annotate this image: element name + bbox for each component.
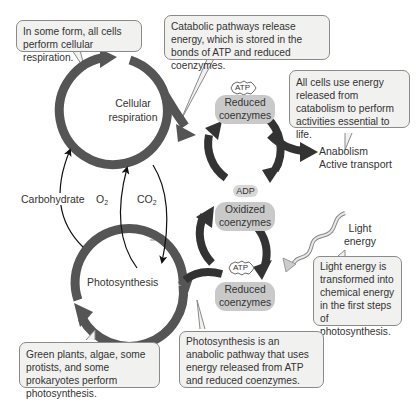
reduced-coenzymes-bottom: Reduced coenzymes bbox=[215, 282, 275, 311]
o2-label: O2 bbox=[96, 193, 108, 209]
light-energy-label: Light energy bbox=[340, 222, 380, 247]
callout-light-energy-transformed: Light energy is transformed into chemica… bbox=[313, 256, 402, 326]
upper-cycle-arrowhead-right bbox=[262, 165, 282, 183]
active-transport-label: Active transport bbox=[319, 158, 392, 170]
atp-top-label: ATP bbox=[235, 82, 250, 94]
callout-green-plants: Green plants, algae, some protists, and … bbox=[19, 342, 160, 388]
atp-bottom-label: ATP bbox=[233, 262, 248, 274]
callout-anabolic-pathway: Photosynthesis is an anabolic pathway th… bbox=[179, 331, 324, 388]
callout-catabolic-pathways: Catabolic pathways release energy, which… bbox=[164, 15, 330, 60]
anabolism-arrowhead bbox=[300, 142, 318, 162]
oxidized-coenzymes: Oxidized coenzymes bbox=[215, 202, 275, 231]
respiration-out-arrowhead bbox=[176, 124, 196, 142]
adp-badge: ADP bbox=[233, 185, 258, 197]
co2-label: CO2 bbox=[137, 193, 157, 209]
reduced-coenzymes-top: Reduced coenzymes bbox=[215, 95, 275, 124]
callout-respiration-all-cells: In some form, all cells perform cellular… bbox=[16, 20, 142, 52]
carbohydrate-label: Carbohydrate bbox=[21, 193, 85, 205]
photosynthesis-label: Photosynthesis bbox=[87, 276, 158, 288]
cellular-respiration-label: Cellular respiration bbox=[95, 97, 171, 123]
callout-cells-use-energy: All cells use energy released from catab… bbox=[289, 70, 410, 128]
energy-cycle-diagram: In some form, all cells perform cellular… bbox=[0, 0, 418, 406]
anabolism-label: Anabolism bbox=[319, 145, 368, 157]
